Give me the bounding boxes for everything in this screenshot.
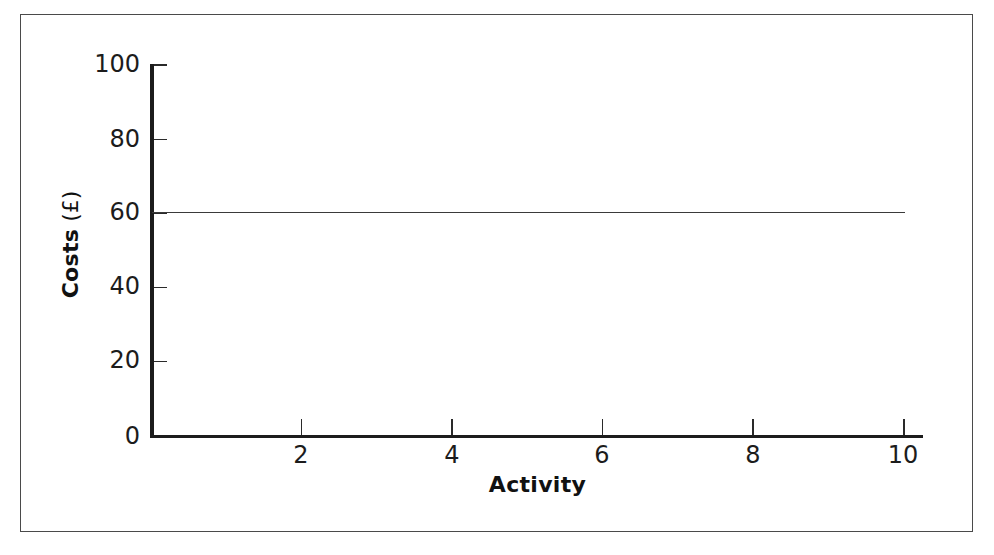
y-axis-line bbox=[150, 64, 154, 438]
y-tick-label-60: 60 bbox=[80, 200, 140, 224]
y-tick-label-40: 40 bbox=[80, 274, 140, 298]
x-tick-mark-2 bbox=[301, 419, 303, 435]
y-tick-label-0: 0 bbox=[80, 424, 140, 448]
x-tick-mark-4 bbox=[451, 419, 453, 435]
y-axis-title-name: Costs bbox=[58, 229, 83, 298]
y-axis-title: Costs (£) bbox=[58, 135, 83, 355]
y-axis-title-unit bbox=[58, 222, 83, 229]
x-tick-mark-8 bbox=[752, 419, 754, 435]
y-tick-mark-100 bbox=[154, 64, 167, 66]
x-tick-label-8: 8 bbox=[718, 443, 788, 467]
y-tick-label-20: 20 bbox=[80, 348, 140, 372]
plot-area: 100 80 60 40 20 0 2 4 6 8 10 Activity Co… bbox=[0, 0, 994, 555]
x-tick-label-10: 10 bbox=[868, 443, 938, 467]
x-tick-mark-6 bbox=[602, 419, 604, 435]
y-tick-mark-80 bbox=[154, 139, 167, 141]
figure-container: 100 80 60 40 20 0 2 4 6 8 10 Activity Co… bbox=[0, 0, 994, 555]
x-tick-label-4: 4 bbox=[417, 443, 487, 467]
x-tick-label-2: 2 bbox=[266, 443, 336, 467]
fixed-cost-line bbox=[152, 212, 905, 214]
y-tick-label-100: 100 bbox=[80, 52, 140, 76]
x-tick-label-6: 6 bbox=[567, 443, 637, 467]
y-tick-mark-20 bbox=[154, 361, 167, 363]
x-tick-mark-10 bbox=[903, 419, 905, 435]
y-tick-mark-40 bbox=[154, 287, 167, 289]
y-tick-label-80: 80 bbox=[80, 127, 140, 151]
y-axis-title-currency: (£) bbox=[58, 191, 83, 222]
x-axis-line bbox=[150, 435, 923, 439]
x-axis-title: Activity bbox=[0, 472, 994, 497]
